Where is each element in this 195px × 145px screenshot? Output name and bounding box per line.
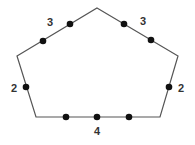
pentagon-diagram: 33224 (0, 0, 195, 145)
right-edge-point-1 (166, 84, 173, 91)
bottom-edge-point-1 (63, 114, 70, 121)
right-edge-count-label: 2 (178, 82, 184, 94)
upper-right-edge-count-label: 3 (140, 15, 146, 27)
upper-left-edge-point-2 (67, 21, 74, 28)
upper-left-edge-count-label: 3 (47, 16, 53, 28)
bottom-edge-count-label: 4 (94, 125, 101, 137)
left-edge-point-1 (23, 84, 30, 91)
upper-right-edge-point-1 (121, 21, 128, 28)
upper-right-edge-point-2 (148, 37, 155, 44)
upper-left-edge-point-1 (40, 38, 47, 45)
bottom-edge-point-2 (94, 114, 101, 121)
bottom-edge-point-3 (126, 114, 133, 121)
pentagon-outline (17, 8, 178, 117)
left-edge-count-label: 2 (11, 82, 17, 94)
edge-points (23, 21, 173, 121)
